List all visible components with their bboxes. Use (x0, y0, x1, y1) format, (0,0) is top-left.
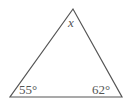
apex-angle-label: x (67, 15, 74, 30)
bottom-right-angle-label: 62° (92, 82, 110, 97)
bottom-left-angle-label: 55° (19, 82, 37, 97)
triangle-diagram: x 55° 62° (0, 0, 125, 104)
triangle-figure: x 55° 62° (0, 0, 125, 104)
